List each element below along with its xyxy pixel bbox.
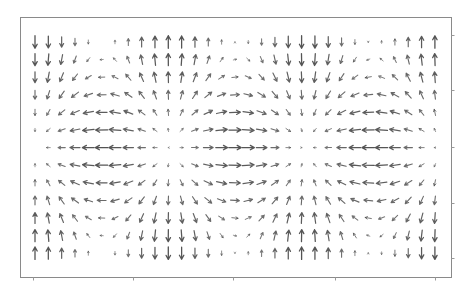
vector-arrow-icon xyxy=(367,41,369,43)
vector-arrow-icon xyxy=(350,111,360,115)
vector-arrow-icon xyxy=(153,36,157,48)
vector-arrow-icon xyxy=(85,216,91,220)
vector-arrow-icon xyxy=(325,164,331,167)
vector-arrow-icon xyxy=(340,56,343,64)
vector-arrow-icon xyxy=(138,180,145,185)
vector-arrow-icon xyxy=(404,164,412,167)
vector-arrow-icon xyxy=(192,164,199,167)
vector-arrow-icon xyxy=(217,93,225,97)
vector-arrow-icon xyxy=(153,72,157,82)
vector-arrow-icon xyxy=(217,199,225,203)
vector-arrow-icon xyxy=(242,145,254,149)
vector-arrow-icon xyxy=(180,91,183,100)
vector-arrow-icon xyxy=(59,180,65,185)
vector-arrow-icon xyxy=(234,42,236,44)
vector-arrow-icon xyxy=(337,146,346,150)
vector-arrow-icon xyxy=(180,128,183,131)
vector-arrow-icon xyxy=(232,76,238,78)
vector-arrow-icon xyxy=(58,129,65,132)
vector-arrow-icon xyxy=(70,128,80,132)
vector-arrow-icon xyxy=(167,128,169,131)
vector-arrow-icon xyxy=(216,128,227,132)
vector-arrow-icon xyxy=(419,196,423,204)
vector-arrow-icon xyxy=(364,93,373,96)
vector-arrow-icon xyxy=(404,128,412,131)
vector-arrow-icon xyxy=(219,75,225,79)
vector-arrow-icon xyxy=(168,147,170,149)
vector-arrow-icon xyxy=(376,163,388,167)
vector-arrow-icon xyxy=(46,213,50,223)
vector-arrow-icon xyxy=(256,128,266,132)
vector-arrow-icon xyxy=(286,164,291,167)
vector-arrow-icon xyxy=(287,196,291,204)
vector-arrow-icon xyxy=(216,163,227,167)
vector-arrow-icon xyxy=(404,146,412,149)
vector-arrow-icon xyxy=(124,181,133,185)
vector-arrow-icon xyxy=(406,214,410,222)
vector-arrow-icon xyxy=(83,181,93,185)
vector-arrow-icon xyxy=(326,54,330,64)
vector-arrow-icon xyxy=(326,197,331,205)
vector-arrow-icon xyxy=(419,36,423,47)
vector-arrow-icon xyxy=(337,129,346,133)
vector-arrow-icon xyxy=(419,248,423,259)
vector-arrow-icon xyxy=(59,110,65,115)
vector-arrow-icon xyxy=(375,145,387,149)
vector-arrow-icon xyxy=(325,129,331,132)
vector-arrow-icon xyxy=(166,230,170,242)
vector-arrow-icon xyxy=(139,73,143,82)
vector-arrow-icon xyxy=(46,230,50,242)
vector-arrow-icon xyxy=(153,54,157,65)
vector-arrow-icon xyxy=(365,217,371,219)
vector-arrow-icon xyxy=(203,146,213,150)
vector-arrow-icon xyxy=(140,37,144,47)
vector-arrow-icon xyxy=(126,74,131,80)
vector-arrow-icon xyxy=(96,181,107,185)
vector-arrow-icon xyxy=(46,147,50,149)
vector-arrow-icon xyxy=(153,91,157,99)
vector-arrow-icon xyxy=(96,128,108,132)
vector-arrow-icon xyxy=(111,93,119,96)
vector-arrow-icon xyxy=(300,90,303,99)
vector-arrow-icon xyxy=(247,252,249,255)
vector-arrow-icon xyxy=(84,198,92,201)
vector-arrow-icon xyxy=(47,180,50,186)
vector-arrow-icon xyxy=(405,180,412,185)
vector-arrow-icon xyxy=(286,230,290,241)
vector-arrow-icon xyxy=(377,93,386,96)
vector-arrow-icon xyxy=(233,59,236,61)
vector-arrow-icon xyxy=(313,230,317,242)
vector-arrow-icon xyxy=(193,197,198,204)
vector-arrow-icon xyxy=(205,92,212,98)
vector-arrow-icon xyxy=(391,198,399,202)
vector-arrow-icon xyxy=(406,249,410,258)
vector-arrow-icon xyxy=(109,128,121,132)
vector-arrow-icon xyxy=(123,146,133,150)
vector-arrow-icon xyxy=(217,110,227,114)
vector-arrow-icon xyxy=(363,110,374,114)
vector-arrow-icon xyxy=(313,109,316,115)
vector-arrow-icon xyxy=(139,91,144,98)
vector-arrow-icon xyxy=(60,248,64,258)
vector-arrow-icon xyxy=(230,181,241,185)
vector-arrow-icon xyxy=(166,213,170,224)
vector-arrow-icon xyxy=(256,163,266,167)
vector-arrow-icon xyxy=(138,110,145,115)
vector-arrow-icon xyxy=(180,164,183,167)
vector-arrow-icon xyxy=(180,147,183,149)
vector-arrow-icon xyxy=(390,110,399,114)
vector-arrow-icon xyxy=(299,54,303,66)
vector-arrow-icon xyxy=(419,72,423,82)
vector-arrow-icon xyxy=(114,251,116,255)
vector-arrow-icon xyxy=(33,196,36,205)
vector-arrow-icon xyxy=(204,128,213,132)
vector-arrow-icon xyxy=(349,163,360,167)
vector-arrow-icon xyxy=(74,249,77,256)
vector-arrow-icon xyxy=(362,163,374,167)
vector-arrow-icon xyxy=(33,36,37,49)
vector-arrow-icon xyxy=(127,232,130,239)
vector-arrow-icon xyxy=(271,110,278,115)
vector-arrow-icon xyxy=(300,72,304,83)
vector-arrow-icon xyxy=(419,91,423,99)
vector-arrow-icon xyxy=(46,36,50,48)
